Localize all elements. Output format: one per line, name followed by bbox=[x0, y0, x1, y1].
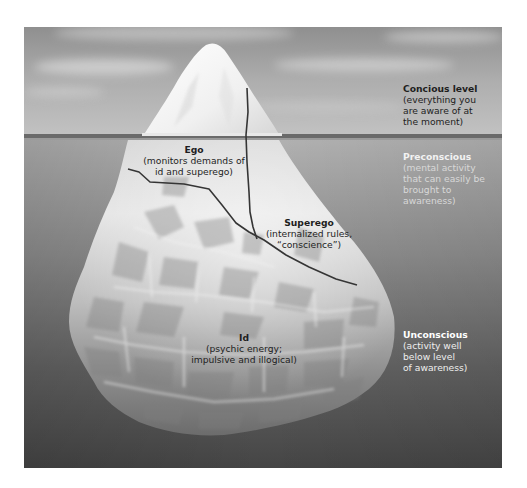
superego-label: Superego (internalized rules, “conscienc… bbox=[249, 217, 369, 250]
superego-desc-line-2: “conscience”) bbox=[249, 239, 369, 250]
id-label: Id (psychic energy; impulsive and illogi… bbox=[164, 332, 324, 365]
unconscious-desc-line-1: (activity well bbox=[403, 340, 468, 351]
preconscious-desc-line-1: (mental activity bbox=[403, 162, 485, 173]
conscious-desc-line-2: are aware of at bbox=[403, 105, 477, 116]
preconscious-title: Preconscious bbox=[403, 151, 485, 162]
conscious-level-label: Concious level (everything you are aware… bbox=[403, 83, 477, 127]
preconscious-desc-line-2: that can easily be bbox=[403, 173, 485, 184]
iceberg-diagram: Ego (monitors demands of id and superego… bbox=[24, 27, 502, 468]
ego-desc-line-1: (monitors demands of bbox=[124, 155, 264, 166]
superego-title: Superego bbox=[249, 217, 369, 228]
id-desc-line-1: (psychic energy; bbox=[164, 343, 324, 354]
preconscious-level-label: Preconscious (mental activity that can e… bbox=[403, 151, 485, 206]
id-desc-line-2: impulsive and illogical) bbox=[164, 354, 324, 365]
preconscious-desc-line-3: brought to bbox=[403, 184, 485, 195]
ego-desc-line-2: id and superego) bbox=[124, 166, 264, 177]
preconscious-desc-line-4: awareness) bbox=[403, 195, 485, 206]
ego-label: Ego (monitors demands of id and superego… bbox=[124, 144, 264, 177]
id-title: Id bbox=[164, 332, 324, 343]
conscious-desc-line-3: the moment) bbox=[403, 116, 477, 127]
superego-desc-line-1: (internalized rules, bbox=[249, 228, 369, 239]
ego-title: Ego bbox=[124, 144, 264, 155]
unconscious-level-label: Unconscious (activity well below level o… bbox=[403, 329, 468, 373]
unconscious-desc-line-3: of awareness) bbox=[403, 362, 468, 373]
conscious-desc-line-1: (everything you bbox=[403, 94, 477, 105]
unconscious-title: Unconscious bbox=[403, 329, 468, 340]
conscious-title: Concious level bbox=[403, 83, 477, 94]
unconscious-desc-line-2: below level bbox=[403, 351, 468, 362]
